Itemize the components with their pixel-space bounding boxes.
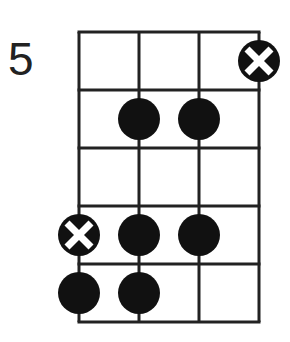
finger-dot	[178, 98, 220, 140]
finger-dot	[118, 98, 160, 140]
finger-dot	[118, 272, 160, 314]
fretboard-grid	[0, 0, 290, 342]
finger-dot	[178, 214, 220, 256]
finger-dot	[118, 214, 160, 256]
finger-dot	[58, 272, 100, 314]
